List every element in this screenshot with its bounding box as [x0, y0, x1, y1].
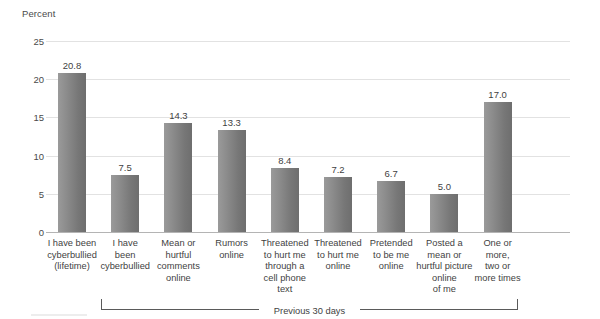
plot-area [46, 41, 570, 232]
bracket-tick-right [517, 299, 518, 310]
gridline [46, 232, 570, 233]
category-label-line: I have [96, 238, 154, 250]
y-axis-tick-label: 25 [4, 36, 44, 47]
category-label-line: Mean or [149, 238, 207, 250]
bar-value-label: 5.0 [418, 181, 470, 192]
category-label-line: Rumors [203, 238, 261, 250]
previous-30-days-bracket: Previous 30 days [101, 297, 518, 310]
bar[interactable] [271, 168, 299, 232]
category-label-line: One or [469, 238, 527, 250]
bar[interactable] [218, 130, 246, 232]
category-label-line: to hurt me [309, 250, 367, 262]
gridline [46, 79, 570, 80]
y-axis-tick-label: 20 [4, 74, 44, 85]
category-label-line: Pretended [362, 238, 420, 250]
bar-value-label: 7.2 [312, 164, 364, 175]
bar-value-label: 8.4 [259, 155, 311, 166]
category-label-line: I have been [43, 238, 101, 250]
category-label-line: cell phone text [256, 273, 314, 296]
category-label-line: more times [469, 273, 527, 285]
category-label-line: Threatened [309, 238, 367, 250]
category-label-line: to be me [362, 250, 420, 262]
category-label-line: comments [149, 261, 207, 273]
category-label-line: two or [469, 261, 527, 273]
bracket-line-right [360, 309, 518, 310]
bar-value-label: 6.7 [365, 168, 417, 179]
bar-value-label: 7.5 [99, 162, 151, 173]
bar[interactable] [324, 177, 352, 232]
bar[interactable] [484, 102, 512, 232]
y-axis-tick-label: 0 [4, 227, 44, 238]
bracket-tick-left [101, 299, 102, 310]
category-label-line: more, [469, 250, 527, 262]
category-label-line: Posted a [415, 238, 473, 250]
y-axis-tick-label: 5 [4, 188, 44, 199]
category-label-line: online [149, 273, 207, 285]
category-label-line: online [362, 261, 420, 273]
category-label: I have beencyberbullied(lifetime) [43, 238, 101, 273]
category-label: One ormore,two ormore times [469, 238, 527, 284]
category-label-line: hurtful [149, 250, 207, 262]
y-axis-tick-label: 10 [4, 150, 44, 161]
bar[interactable] [377, 181, 405, 232]
bar[interactable] [111, 175, 139, 232]
category-label-line: through a [256, 261, 314, 273]
bar-value-label: 20.8 [46, 60, 98, 71]
category-label-line: hurtful picture [415, 261, 473, 273]
category-label-line: Threatened [256, 238, 314, 250]
category-label: I havebeencyberbullied [96, 238, 154, 273]
category-label-line: online [203, 250, 261, 262]
y-axis-tick-label: 15 [4, 112, 44, 123]
bar-value-label: 13.3 [206, 117, 258, 128]
bar[interactable] [164, 123, 192, 232]
bar-value-label: 17.0 [472, 89, 524, 100]
bar[interactable] [430, 194, 458, 232]
category-label-line: been [96, 250, 154, 262]
bracket-line-left [101, 309, 259, 310]
category-label-line: (lifetime) [43, 261, 101, 273]
bar[interactable] [58, 73, 86, 232]
bar-chart: Percent 0510152025 20.87.514.313.38.47.2… [0, 0, 600, 319]
category-label-line: mean or [415, 250, 473, 262]
category-label: Rumorsonline [203, 238, 261, 261]
category-label-line: cyberbullied [96, 261, 154, 273]
category-label-line: online [309, 261, 367, 273]
category-label-line: cyberbullied [43, 250, 101, 262]
category-label-line: to hurt me [256, 250, 314, 262]
category-label: Threatenedto hurt methrough acell phone … [256, 238, 314, 296]
category-label: Posted amean orhurtful pictureonlineof m… [415, 238, 473, 296]
category-label-line: online [415, 273, 473, 285]
category-label: Threatenedto hurt meonline [309, 238, 367, 273]
gridline [46, 41, 570, 42]
category-label-line: of me [415, 284, 473, 296]
bar-value-label: 14.3 [152, 110, 204, 121]
y-axis-title: Percent [22, 8, 55, 19]
category-label: Pretendedto be meonline [362, 238, 420, 273]
bracket-label: Previous 30 days [270, 306, 349, 316]
footer-rule [31, 314, 87, 316]
category-label: Mean orhurtfulcommentsonline [149, 238, 207, 284]
